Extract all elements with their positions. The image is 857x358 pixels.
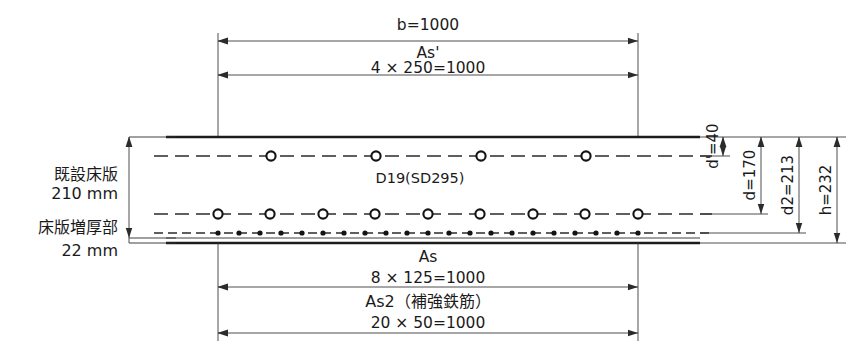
rebar-dot (320, 230, 325, 235)
bar-designation-label: D19(SD295) (376, 170, 465, 186)
d-label: d=170 (741, 150, 759, 201)
slab-section-drawing: b=1000 As' 4 × 250=1000 D19(SD295) (0, 0, 857, 358)
rebar-dot (551, 230, 556, 235)
rebar-dot (404, 230, 409, 235)
right-dimension-block: d'=40 d=170 d2=213 h=232 (700, 123, 846, 243)
d2-label: d2=213 (779, 155, 797, 215)
rebar-dot (425, 230, 430, 235)
rebar-layer-as (154, 209, 712, 218)
rebar-circle (475, 209, 484, 218)
bottom-dimension-block: As 8 × 125=1000 As2（補強鉄筋） 20 × 50=1000 (218, 243, 638, 341)
top-dimension-block: b=1000 As' 4 × 250=1000 (218, 16, 638, 138)
rebar-dot (635, 230, 640, 235)
overlay-layer-name-label: 床版増厚部 (38, 218, 118, 237)
as-spacing-label: 8 × 125=1000 (371, 269, 486, 287)
rebar-circle (370, 209, 379, 218)
rebar-dot (593, 230, 598, 235)
rebar-circle (476, 151, 485, 160)
rebar-circle (265, 209, 274, 218)
rebar-dot (530, 230, 535, 235)
d-prime-label: d'=40 (704, 123, 722, 168)
overall-width-label: b=1000 (397, 16, 459, 34)
rebar-dot (257, 230, 262, 235)
rebar-circle (318, 209, 327, 218)
rebar-dot (614, 230, 619, 235)
rebar-dot (236, 230, 241, 235)
rebar-dot (278, 230, 283, 235)
rebar-dot (488, 230, 493, 235)
rebar-circle (581, 151, 590, 160)
rebar-dot (446, 230, 451, 235)
rebar-circle (213, 209, 222, 218)
as2-title-label: As2（補強鉄筋） (365, 292, 490, 311)
existing-slab-name-label: 既設床版 (54, 165, 118, 184)
rebar-dot (299, 230, 304, 235)
overlay-layer-value-label: 22 mm (61, 241, 118, 260)
rebar-dot (383, 230, 388, 235)
rebar-circle (580, 209, 589, 218)
rebar-circle (423, 209, 432, 218)
as-prime-spacing-label: 4 × 250=1000 (371, 59, 486, 77)
rebar-dot (362, 230, 367, 235)
as-title-label: As (419, 248, 438, 266)
slab-body: D19(SD295) (154, 137, 712, 243)
rebar-layer-as2 (154, 230, 712, 235)
rebar-circle (633, 209, 642, 218)
rebar-dot (467, 230, 472, 235)
rebar-dot (572, 230, 577, 235)
rebar-layer-as-prime (154, 151, 712, 160)
rebar-dot (215, 230, 220, 235)
rebar-circle (528, 209, 537, 218)
h-label: h=232 (817, 165, 835, 216)
as2-spacing-label: 20 × 50=1000 (371, 314, 486, 332)
existing-slab-value-label: 210 mm (51, 184, 118, 203)
rebar-dot (509, 230, 514, 235)
rebar-circle (266, 151, 275, 160)
rebar-dot (341, 230, 346, 235)
rebar-circle (371, 151, 380, 160)
